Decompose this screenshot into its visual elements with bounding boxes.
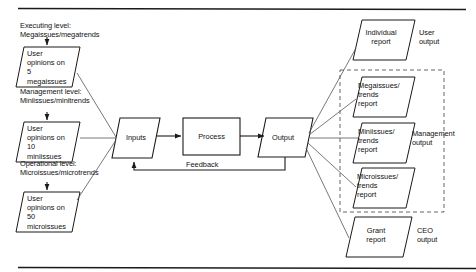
- connector-output-report-4: [308, 143, 356, 187]
- top-rule: [18, 9, 466, 10]
- level-label-executing: Executing level:Megaissues/megatrends: [20, 22, 99, 39]
- source-text-2-line1: User: [27, 124, 43, 133]
- level-label-management-line2: Miniissues/minitrends: [20, 96, 90, 105]
- group-label-user-output-line2: output: [419, 37, 439, 46]
- output-report-text-3-line3: report: [358, 145, 377, 154]
- process-label: Process: [183, 132, 240, 141]
- diagram-canvas: Executing level:Megaissues/megatrends Ma…: [0, 0, 476, 272]
- source-text-1: Useropinions on5megaissues: [27, 49, 77, 86]
- source-text-3-line2: opinions on: [27, 203, 65, 212]
- output-report-text-2-line3: report: [358, 99, 377, 108]
- output-report-text-3-line1: Miniissues/: [358, 127, 395, 136]
- output-report-text-4-line3: report: [357, 190, 376, 199]
- level-label-executing-line2: Megaissues/megatrends: [20, 30, 99, 39]
- source-text-1-line1: User: [27, 49, 43, 58]
- output-report-text-5: Grantreport: [350, 226, 402, 244]
- source-text-3: Useropinions on50microissues: [27, 194, 77, 231]
- connector-output-report-1: [309, 48, 356, 133]
- group-label-ceo-output: CEOoutput: [417, 227, 437, 244]
- output-label: Output: [259, 133, 307, 142]
- group-label-user-output: Useroutput: [419, 29, 439, 46]
- level-label-operational: Operational level:Microissues/microtrend…: [20, 160, 99, 177]
- output-report-text-3: Miniissues/trendsreport: [358, 127, 410, 155]
- group-label-ceo-output-line2: output: [417, 235, 437, 244]
- level-label-operational-line2: Microissues/microtrends: [20, 168, 99, 177]
- output-report-text-4-line1: Microissues/: [357, 172, 398, 181]
- level-label-management: Management level:Miniissues/minitrends: [20, 88, 90, 105]
- output-report-text-1-line1: Individual: [365, 28, 396, 37]
- source-text-3-line3: 50: [27, 212, 35, 221]
- source-text-3-line4: microissues: [27, 222, 66, 231]
- output-report-text-4: Microissues/trendsreport: [357, 172, 411, 200]
- connector-output-report-5: [306, 148, 349, 238]
- output-report-text-2-line2: trends: [358, 90, 379, 99]
- source-text-2: Useropinions on10miniissues: [27, 124, 77, 161]
- output-report-text-5-line1: Grant: [367, 226, 385, 235]
- group-label-management-output: Managementoutput: [412, 130, 455, 147]
- group-label-management-output-line2: output: [412, 138, 432, 147]
- inputs-label: Inputs: [112, 133, 160, 142]
- source-text-2-line4: miniissues: [27, 152, 62, 161]
- output-report-text-1-line2: report: [371, 37, 390, 46]
- output-report-text-5-line2: report: [366, 235, 385, 244]
- source-text-3-line1: User: [27, 194, 43, 203]
- output-report-text-1: Individualreport: [355, 28, 407, 46]
- output-report-text-3-line2: trends: [358, 136, 379, 145]
- output-report-text-2: Megaissues/trendsreport: [358, 81, 410, 109]
- output-report-text-2-line1: Megaissues/: [358, 81, 400, 90]
- feedback-label: Feedback: [186, 160, 218, 169]
- source-text-1-line3: 5: [27, 67, 31, 76]
- bottom-rule: [18, 268, 476, 269]
- source-text-1-line2: opinions on: [27, 58, 65, 67]
- source-text-2-line2: opinions on: [27, 133, 65, 142]
- source-text-1-line4: megaissues: [27, 77, 66, 86]
- source-text-2-line3: 10: [27, 142, 35, 151]
- output-report-text-4-line2: trends: [357, 181, 378, 190]
- connector-output-report-2: [309, 99, 356, 135]
